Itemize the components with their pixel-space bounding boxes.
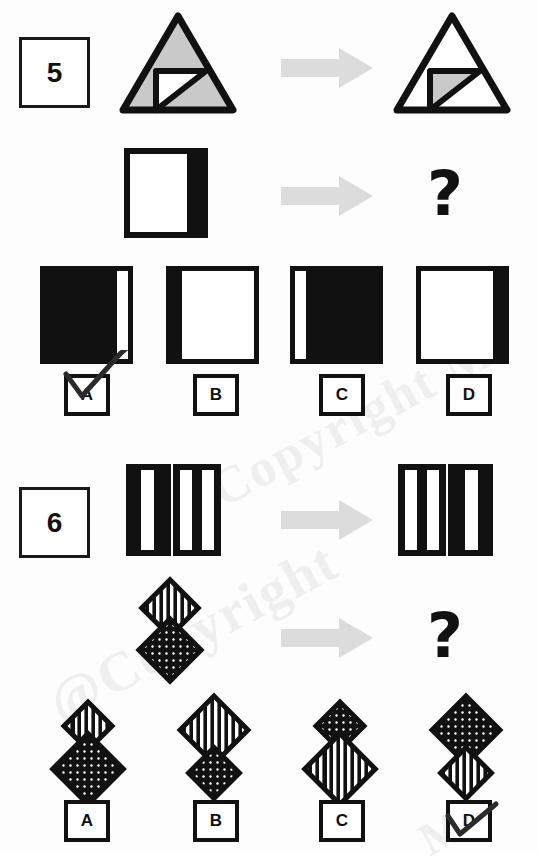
option-letter: A bbox=[81, 811, 93, 831]
puzzle5-option-c-shape[interactable] bbox=[290, 266, 383, 364]
puzzle5-row1-arrow-icon bbox=[281, 48, 373, 88]
puzzle6-row1-right-shape bbox=[398, 464, 493, 556]
puzzle6-option-b-shape[interactable] bbox=[170, 700, 262, 796]
question-mark-glyph: ? bbox=[427, 157, 463, 230]
option-letter: B bbox=[210, 385, 222, 405]
puzzle-number-label: 6 bbox=[47, 507, 63, 539]
puzzle-number-box-6: 6 bbox=[19, 487, 90, 558]
puzzle5-option-b-shape[interactable] bbox=[166, 266, 259, 364]
puzzle5-question-mark: ? bbox=[415, 160, 475, 226]
puzzle5-row1-left-shape bbox=[118, 11, 238, 115]
puzzle5-row1-right-shape bbox=[392, 11, 512, 115]
puzzle6-option-label-b[interactable]: B bbox=[193, 800, 239, 842]
puzzle5-row2-left-shape bbox=[124, 148, 208, 238]
puzzle6-option-label-d[interactable]: D bbox=[446, 800, 492, 842]
puzzle6-option-d-shape[interactable] bbox=[422, 700, 514, 796]
option-letter: A bbox=[81, 385, 93, 405]
puzzle6-option-c-shape[interactable] bbox=[296, 700, 388, 796]
puzzle6-question-mark: ? bbox=[415, 602, 475, 668]
puzzle6-row1-arrow-icon bbox=[281, 500, 373, 540]
puzzle6-option-a-shape[interactable] bbox=[44, 700, 136, 796]
puzzle-number-box-5: 5 bbox=[19, 37, 90, 108]
puzzle5-option-label-d[interactable]: D bbox=[446, 374, 492, 416]
option-letter: C bbox=[336, 811, 348, 831]
puzzle5-row2-arrow-icon bbox=[281, 176, 373, 216]
option-letter: D bbox=[463, 385, 475, 405]
puzzle6-row2-left-shape bbox=[128, 578, 212, 683]
puzzle5-option-d-shape[interactable] bbox=[416, 266, 509, 364]
puzzle5-option-a-shape[interactable] bbox=[40, 266, 133, 364]
puzzle6-row2-arrow-icon bbox=[281, 618, 373, 658]
option-letter: C bbox=[336, 385, 348, 405]
question-mark-glyph: ? bbox=[427, 599, 463, 672]
puzzle6-option-label-a[interactable]: A bbox=[64, 800, 110, 842]
puzzle5-option-label-a[interactable]: A bbox=[64, 374, 110, 416]
puzzle5-option-label-b[interactable]: B bbox=[193, 374, 239, 416]
option-letter: D bbox=[463, 811, 475, 831]
puzzle6-option-label-c[interactable]: C bbox=[319, 800, 365, 842]
puzzle-number-label: 5 bbox=[47, 57, 63, 89]
puzzle6-row1-left-shape bbox=[126, 464, 221, 556]
option-letter: B bbox=[210, 811, 222, 831]
puzzle5-option-label-c[interactable]: C bbox=[319, 374, 365, 416]
